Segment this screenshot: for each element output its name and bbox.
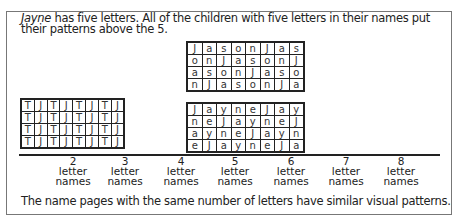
letter-cell: J [203, 79, 217, 90]
letter-cell: J [246, 128, 260, 139]
letter-cell: n [188, 116, 202, 127]
letter-cell: n [232, 104, 246, 115]
letter-cell: J [217, 116, 231, 127]
letter-cell: J [35, 112, 47, 123]
letter-cell: T [22, 112, 34, 123]
letter-cell: J [290, 55, 304, 66]
letter-cell: T [22, 124, 34, 135]
letter-cell: J [35, 124, 47, 135]
letter-cell: e [246, 104, 260, 115]
axis-label-4: 4letternames [156, 156, 206, 186]
letter-cell: s [203, 67, 217, 78]
letter-cell: J [86, 136, 98, 147]
letter-cell: e [232, 128, 246, 139]
letter-cell: J [217, 55, 231, 66]
letter-cell: T [99, 112, 111, 123]
letter-cell: J [188, 104, 202, 115]
letter-cell: a [188, 128, 202, 139]
letter-cell: J [86, 100, 98, 111]
letter-cell: T [73, 100, 85, 111]
letter-cell: J [86, 124, 98, 135]
letter-cell: J [275, 79, 289, 90]
letter-cell: o [246, 79, 260, 90]
letter-cell: s [275, 67, 289, 78]
tj-pattern-grid: TJTJTJTJTJTJTJTJTJTJTJTJTJTJTJTJ [20, 98, 125, 149]
axis-label-8: 8letternames [376, 156, 426, 186]
letter-cell: o [188, 55, 202, 66]
letter-cell: y [290, 104, 304, 115]
letter-cell: a [290, 140, 304, 151]
letter-cell: T [48, 100, 60, 111]
letter-cell: J [60, 124, 72, 135]
letter-cell: T [73, 124, 85, 135]
axis-label-7: 7letternames [321, 156, 371, 186]
letter-cell: J [275, 140, 289, 151]
letter-cell: s [217, 43, 231, 54]
letter-cell: a [290, 79, 304, 90]
letter-cell: o [290, 67, 304, 78]
letter-cell: J [35, 136, 47, 147]
letter-cell: y [246, 116, 260, 127]
letter-cell: J [60, 112, 72, 123]
letter-cell: a [203, 104, 217, 115]
letter-cell: n [188, 79, 202, 90]
letter-cell: a [232, 116, 246, 127]
axis-label-2: 2letternames [48, 156, 98, 186]
letter-cell: n [261, 79, 275, 90]
letter-cell: o [261, 55, 275, 66]
letter-cell: J [203, 140, 217, 151]
letter-cell: e [261, 140, 275, 151]
letter-cell: y [232, 140, 246, 151]
letter-cell: e [275, 116, 289, 127]
letter-cell: T [99, 136, 111, 147]
letter-cell: n [246, 43, 260, 54]
jason-pattern-grid: JasonJasonJasonJasonJasonJasonJa [186, 41, 305, 92]
letter-cell: n [217, 128, 231, 139]
letter-cell: T [73, 112, 85, 123]
intro-text: Jayne has five letters. All of the child… [21, 13, 441, 35]
letter-cell: a [217, 140, 231, 151]
axis-label-3: 3letternames [100, 156, 150, 186]
letter-cell: J [188, 43, 202, 54]
letter-cell: T [48, 136, 60, 147]
letter-cell: T [22, 136, 34, 147]
letter-cell: a [232, 55, 246, 66]
letter-cell: n [261, 116, 275, 127]
letter-cell: s [290, 43, 304, 54]
letter-cell: n [290, 128, 304, 139]
letter-cell: J [112, 124, 124, 135]
footer-caption: The name pages with the same number of l… [21, 194, 451, 208]
letter-cell: T [99, 124, 111, 135]
letter-cell: J [60, 100, 72, 111]
letter-cell: n [203, 55, 217, 66]
intro-body: has five letters. All of the children wi… [21, 11, 430, 36]
letter-cell: J [112, 112, 124, 123]
letter-cell: T [48, 112, 60, 123]
letter-cell: n [246, 140, 260, 151]
letter-cell: o [232, 43, 246, 54]
letter-cell: a [203, 43, 217, 54]
letter-cell: n [275, 55, 289, 66]
letter-cell: y [217, 104, 231, 115]
letter-cell: J [246, 67, 260, 78]
letter-cell: o [217, 67, 231, 78]
axis-label-5: 5letternames [210, 156, 260, 186]
letter-cell: T [73, 136, 85, 147]
letter-cell: a [188, 67, 202, 78]
axis-label-6: 6letternames [266, 156, 316, 186]
letter-cell: J [35, 100, 47, 111]
letter-cell: J [60, 136, 72, 147]
letter-cell: e [188, 140, 202, 151]
letter-cell: T [99, 100, 111, 111]
letter-cell: y [275, 128, 289, 139]
letter-cell: a [275, 43, 289, 54]
jayne-pattern-grid: JayneJayneJayneJayneJayneJayneJa [186, 102, 305, 153]
letter-cell: T [22, 100, 34, 111]
letter-cell: e [203, 116, 217, 127]
letter-cell: J [261, 43, 275, 54]
letter-cell: y [203, 128, 217, 139]
letter-cell: a [275, 104, 289, 115]
letter-cell: n [232, 67, 246, 78]
letter-cell: a [261, 128, 275, 139]
letter-cell: a [261, 67, 275, 78]
